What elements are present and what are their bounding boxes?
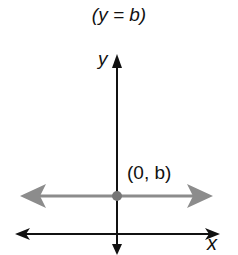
intercept-point — [112, 191, 122, 201]
point-label: (0, b) — [127, 162, 171, 184]
y-axis-label: y — [98, 48, 108, 70]
coordinate-plane — [0, 0, 238, 255]
y-axis — [112, 54, 122, 255]
x-axis-label: x — [207, 232, 217, 255]
